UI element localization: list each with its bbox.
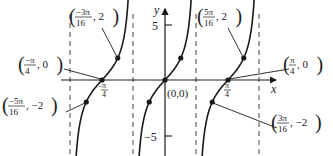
x-tick-pi4: π 4 [224,81,231,99]
point-label-neg-5pi16: (−5π16, −2) [2,94,58,117]
svg-text:): ) [113,5,120,28]
svg-text:−3π: −3π [76,7,91,17]
svg-text:16: 16 [204,18,214,28]
point-label-neg-pi4: (−π4, 0) [18,53,63,76]
svg-text:16: 16 [9,107,19,117]
point-neg-3pi16 [115,55,120,60]
branch-left-down [75,80,102,156]
y-axis-label: y [153,3,160,17]
svg-text:(: ( [197,5,204,28]
svg-text:4: 4 [102,90,106,99]
svg-text:, 0: , 0 [297,58,309,70]
x-tick-neg-pi4: − π 4 [98,81,108,99]
point-pi16 [178,55,183,60]
svg-text:, 2: , 2 [93,10,104,22]
svg-text:16: 16 [278,124,288,134]
svg-text:, 0: , 0 [37,58,49,70]
x-axis-label: x [270,82,277,96]
svg-text:): ) [315,111,322,134]
y-tick-label-neg5: −5 [144,130,157,144]
point-label-neg-3pi16: (−3π16, 2) [69,5,119,28]
point-origin [162,77,167,82]
svg-text:3π: 3π [278,113,288,123]
svg-text:(: ( [2,94,9,117]
point-label-pos-3pi16: (3π16, −2) [271,111,322,134]
svg-text:(: ( [271,111,278,134]
svg-text:): ) [317,53,324,76]
branch-center-down [138,80,165,156]
svg-text:−π: −π [25,55,35,65]
svg-text:(: ( [69,5,76,28]
point-5pi16 [241,55,246,60]
svg-text:, −2: , −2 [26,99,43,111]
svg-text:4: 4 [225,90,229,99]
y-tick-label-5: 5 [152,19,158,33]
svg-text:4: 4 [25,66,30,76]
svg-text:): ) [51,94,58,117]
point-neg-pi16 [147,99,152,104]
svg-text:−5π: −5π [9,96,24,106]
svg-text:(: ( [18,53,25,76]
svg-text:π: π [102,81,106,90]
branch-right-down [201,80,228,156]
origin-label: (0,0) [167,87,188,100]
point-label-pos-5pi16: (5π16, 2) [197,5,242,28]
svg-text:, 2: , 2 [216,10,227,22]
branch-center [165,0,192,80]
svg-text:): ) [57,53,64,76]
svg-text:): ) [236,5,243,28]
svg-text:π: π [225,81,229,90]
leader-lines [64,28,289,128]
point-neg-5pi16 [84,99,89,104]
svg-text:4: 4 [290,66,295,76]
svg-text:(: ( [283,53,290,76]
svg-text:, −2: , −2 [290,116,307,128]
point-label-pos-pi4: (π4, 0) [283,53,323,76]
svg-text:5π: 5π [204,7,214,17]
svg-text:16: 16 [76,18,86,28]
tangent-graph: y x 5 −5 (0,0) − π 4 π 4 (−3π16, 2)(−π4,… [0,0,333,156]
svg-text:π: π [290,55,295,65]
